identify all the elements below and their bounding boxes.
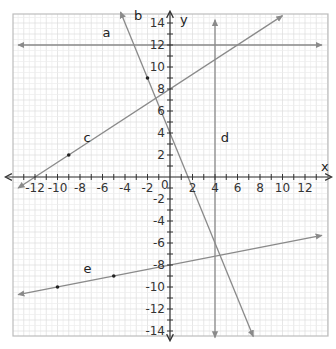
- point-on-line-c: [67, 153, 71, 157]
- y-tick-label: -8: [153, 258, 165, 272]
- line-label-a: a: [103, 25, 111, 40]
- y-tick-label: 12: [150, 38, 165, 52]
- line-label-b: b: [134, 8, 142, 23]
- line-label-d: d: [221, 130, 229, 145]
- x-tick-label: 4: [211, 181, 219, 195]
- x-tick-label: 2: [189, 181, 197, 195]
- line-label-e: e: [83, 261, 91, 276]
- point-on-line-e: [112, 274, 116, 278]
- origin-label: 0: [161, 178, 169, 192]
- x-tick-label: -8: [74, 181, 86, 195]
- y-tick-label: -10: [145, 280, 165, 294]
- y-tick-label: -2: [153, 192, 165, 206]
- y-tick-label: 6: [157, 104, 165, 118]
- y-tick-label: -4: [153, 214, 165, 228]
- point-on-line-e: [56, 285, 60, 289]
- x-tick-label: 6: [234, 181, 242, 195]
- y-tick-label: 14: [150, 16, 165, 30]
- x-tick-label: 10: [275, 181, 290, 195]
- x-tick-label: 8: [256, 181, 264, 195]
- y-tick-label: 10: [150, 60, 165, 74]
- y-tick-label: -6: [153, 236, 165, 250]
- y-tick-label: -14: [145, 324, 165, 338]
- x-tick-label: -12: [25, 181, 45, 195]
- point-on-line-b: [146, 76, 150, 80]
- x-tick-label: -10: [48, 181, 68, 195]
- line-label-c: c: [83, 130, 90, 145]
- y-tick-label: 4: [157, 126, 165, 140]
- x-tick-label: -2: [142, 181, 154, 195]
- coordinate-plane: abcde -12-10-8-6-4-2246810121412108642-2…: [0, 0, 336, 349]
- x-axis-label: x: [321, 159, 329, 174]
- y-tick-label: -12: [145, 302, 165, 316]
- x-tick-label: -4: [119, 181, 131, 195]
- x-tick-label: 12: [297, 181, 312, 195]
- x-tick-label: -6: [97, 181, 109, 195]
- y-axis-label: y: [180, 12, 188, 27]
- y-tick-label: 2: [157, 148, 165, 162]
- y-tick-label: 8: [157, 82, 165, 96]
